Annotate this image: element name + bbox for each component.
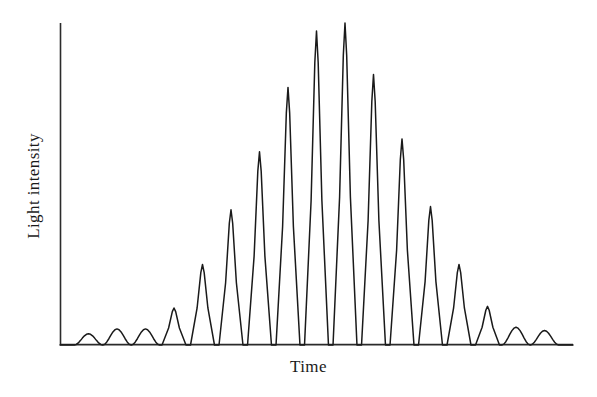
plot-axes: [60, 23, 573, 345]
y-axis-label: Light intensity: [24, 126, 44, 246]
interference-plot: [0, 0, 597, 397]
figure-container: Light intensity Time: [0, 0, 597, 397]
intensity-curve: [60, 23, 573, 345]
x-axis-label: Time: [0, 357, 597, 377]
